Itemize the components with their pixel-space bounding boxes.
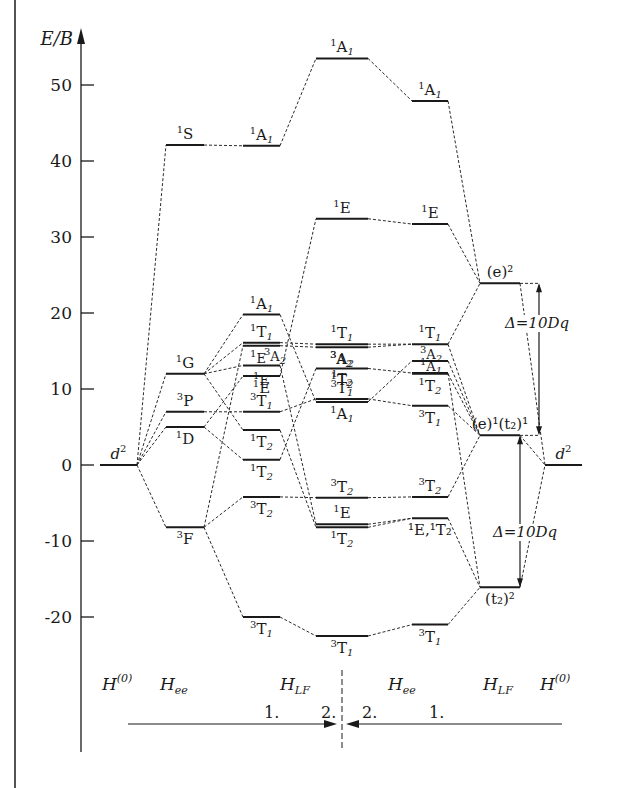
label-c3-1A1-high: 1A1 (250, 125, 274, 145)
hamiltonian-labels: H(0)HeeHLFHeeHLFH(0)1.2.2.1. (101, 672, 570, 722)
label-c5-1T2: 1T2 (419, 376, 442, 396)
correlation-line (368, 219, 412, 224)
tick-label: 10 (50, 379, 72, 399)
extra-label-2: 3A2 (330, 349, 352, 369)
step-label-1: 2. (321, 703, 336, 722)
correlation-line (368, 518, 412, 524)
arrow-up-icon (536, 283, 542, 292)
label-c4-3T1-low: 3T1 (331, 638, 354, 658)
label-c4-1A1: 1A1 (330, 404, 354, 424)
label-c6-t22: (t₂)² (485, 590, 515, 608)
correlation-line (204, 527, 243, 617)
tick-label: -10 (45, 531, 72, 551)
tick-label: 50 (50, 75, 72, 95)
tick-label: -20 (45, 607, 72, 627)
delta-upper-label: Δ=10Dq (504, 314, 569, 332)
energy-levels (100, 58, 582, 636)
label-c5-3T1-low: 3T1 (419, 627, 442, 647)
correlation-line (280, 219, 316, 376)
label-c4-1E-low: 1E (333, 503, 350, 522)
correlation-line (204, 427, 243, 460)
label-c2-1G: 1G (176, 353, 194, 372)
correlation-line (137, 427, 166, 465)
label-c7-d2: d2 (556, 443, 572, 463)
correlation-line (137, 145, 166, 465)
label-c2-3F: 3F (177, 529, 194, 548)
step-label-2: 2. (362, 703, 377, 722)
label-c5-1T1: 1T1 (419, 323, 442, 343)
label-c5-1E: 1E (421, 203, 438, 222)
label-c5-1E1T2: ¹E,¹T₂ (408, 521, 452, 539)
correlation-line (520, 283, 545, 465)
step-label-3: 1. (429, 703, 444, 722)
correlation-line (448, 283, 480, 344)
h0-left-label: H(0) (101, 672, 132, 694)
label-c5-3T1: 3T1 (419, 408, 442, 428)
label-c4-1T1: 1T1 (331, 323, 354, 343)
hee-left-label: Hee (159, 674, 188, 697)
label-c4-1E: 1E (333, 198, 350, 217)
hlf-left-label: HLF (279, 674, 310, 697)
label-c3-1T2-b: 1T2 (250, 462, 273, 482)
delta-lower-label: Δ=10Dq (492, 523, 557, 541)
label-c3-1T2: 1T2 (250, 432, 273, 452)
label-c4-1A1-top: 1A1 (330, 37, 354, 57)
hee-right-label: Hee (387, 674, 416, 697)
tick-label: 0 (61, 455, 72, 475)
axis-label: E/B (40, 28, 73, 49)
label-c6-e1t1: (e)¹(t₂)¹ (472, 415, 528, 433)
y-axis: E/B 50403020100-10-20 (40, 28, 94, 752)
label-c3-3T2: 3T2 (250, 499, 273, 519)
step-label-0: 1. (264, 703, 279, 722)
label-c3-3T1-low: 3T1 (250, 619, 273, 639)
correlation-line (280, 58, 316, 145)
label-c2-1D: 1D (176, 429, 194, 448)
label-c1-d2: d2 (111, 443, 127, 463)
correlation-line (204, 315, 243, 374)
correlation-line (368, 361, 412, 402)
label-c4-3T2: 3T2 (331, 477, 354, 497)
h0-right-label: H(0) (539, 672, 570, 694)
correlation-line (448, 435, 480, 497)
tick-label: 30 (50, 227, 72, 247)
correlation-line (368, 497, 412, 498)
correlation-line (280, 617, 316, 636)
arrow-down-icon (517, 578, 523, 587)
label-c5-3T2: 3T2 (419, 476, 442, 496)
correlation-line (280, 497, 316, 498)
hlf-right-label: HLF (482, 674, 513, 697)
correlation-line (448, 587, 480, 624)
label-c5-1A1-top: 1A1 (418, 80, 442, 100)
correlation-line (280, 399, 316, 412)
correlation-line (368, 625, 412, 636)
correlation-line (204, 145, 243, 146)
correlation-line (368, 399, 412, 406)
arrow-up-icon (517, 435, 523, 444)
label-c6-e2: (e)² (487, 263, 514, 281)
correlation-line (280, 343, 316, 345)
tick-label: 40 (50, 151, 72, 171)
label-c2-1S: 1S (177, 124, 194, 143)
correlation-line (204, 376, 243, 427)
correlation-line (368, 58, 412, 101)
arrow-left-icon (346, 720, 359, 728)
correlation-line (448, 101, 480, 283)
energy-level-diagram: E/B 50403020100-10-20 d21S1G3P1D3F1A11A1… (0, 0, 624, 788)
correlation-line (137, 465, 166, 527)
correlation-line (280, 346, 316, 348)
correlation-line (368, 368, 412, 373)
axis-arrow-icon (77, 28, 85, 44)
label-c2-3P: 3P (177, 391, 193, 410)
label-c3-1T1: 1T1 (250, 322, 273, 342)
tick-label: 20 (50, 303, 72, 323)
extra-label-1: 3A2 (264, 346, 286, 366)
label-c4-1T2-low: 1T2 (331, 529, 354, 549)
label-c3-1A1: 1A1 (250, 294, 274, 314)
